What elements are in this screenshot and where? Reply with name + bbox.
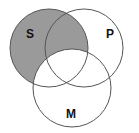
- label-m: M: [66, 107, 76, 121]
- venn-diagram: S P M: [0, 0, 139, 133]
- label-s: S: [26, 27, 34, 41]
- label-p: P: [106, 27, 114, 41]
